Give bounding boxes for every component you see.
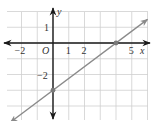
point-marker: [114, 41, 119, 46]
y-axis-label: y: [56, 6, 62, 17]
origin-label: O: [42, 45, 49, 56]
x-tick-label: 2: [82, 45, 87, 56]
y-tick-label: 1: [44, 22, 49, 33]
x-tick-label: −2: [15, 45, 26, 56]
point-marker: [51, 88, 56, 93]
y-tick-label: −2: [37, 70, 48, 81]
grid: [7, 12, 148, 121]
x-tick-label: 1: [66, 45, 71, 56]
x-tick-label: 5: [129, 45, 134, 56]
x-axis-label: x: [139, 45, 145, 56]
coordinate-plane: y x O −2125 1−2: [0, 0, 154, 121]
